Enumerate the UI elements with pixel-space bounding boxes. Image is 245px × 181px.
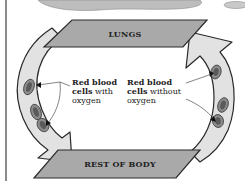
left-arrow-icon [17,28,72,162]
label-line2-rest: without [148,87,182,96]
label-line2-bold: cells [72,86,93,96]
rest-of-body-label: REST OF BODY [70,159,170,169]
label-line2-bold: cells [127,86,148,96]
label-line3: oxygen [72,96,132,105]
droplet-shape [224,2,245,9]
lung-blob-shape [38,0,202,11]
deoxygenated-cells-label: Red blood cells without oxygen [127,78,197,105]
oxygenated-cells-label: Red blood cells with oxygen [72,78,132,105]
lungs-label: LUNGS [95,29,155,39]
circulation-diagram: LUNGS REST OF BODY Red blood cells with … [0,0,245,181]
label-line3: oxygen [127,96,197,105]
label-line2-rest: with [93,87,113,96]
